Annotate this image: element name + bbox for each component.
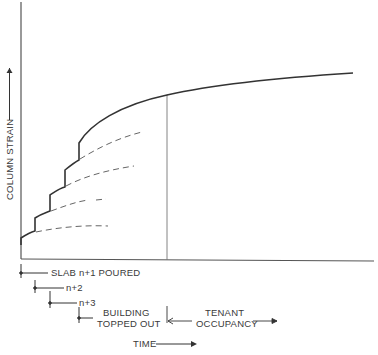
x-axis-label: TIME	[133, 338, 157, 349]
y-axis-label: COLUMN STRAIN	[4, 119, 15, 200]
slab-n3-label: n+3	[79, 297, 96, 308]
time-arrow	[156, 341, 197, 347]
topped-out-label-2: TOPPED OUT	[97, 318, 161, 329]
y-axis-label-group: COLUMN STRAIN	[4, 68, 15, 200]
topped-out-label-1: BUILDING	[103, 307, 149, 318]
dashed-curve-2	[51, 199, 106, 211]
strain-curve	[21, 73, 353, 245]
dashed-curve-1	[36, 226, 108, 232]
slab-n1-label: SLAB n+1 POURED	[51, 267, 140, 278]
x-axis	[21, 259, 374, 261]
slab-n1-marker	[20, 264, 48, 278]
slab-n2-label: n+2	[66, 282, 83, 293]
slab-n2-marker	[34, 280, 64, 293]
slab-n3-marker	[49, 291, 77, 308]
tenant-label-1: TENANT	[205, 307, 244, 318]
tenant-label-2: OCCUPANCY	[196, 318, 258, 329]
topped-out-marker	[78, 307, 93, 323]
column-strain-diagram: COLUMN STRAIN SLAB n+1 POURED n+2 n+3 BU…	[0, 0, 378, 355]
dashed-curve-3	[66, 166, 134, 186]
dashed-curve-4	[80, 132, 142, 159]
